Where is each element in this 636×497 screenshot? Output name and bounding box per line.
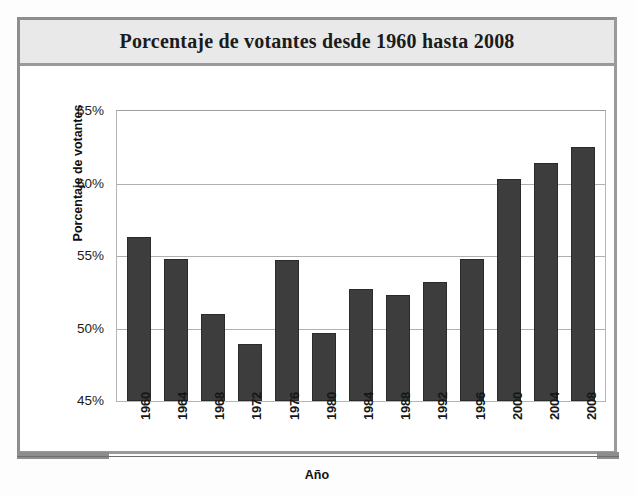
x-axis-tick-label: 1992 bbox=[435, 392, 450, 420]
y-axis-tick-label: 60% bbox=[77, 175, 104, 190]
y-axis-tick-label: 50% bbox=[77, 320, 104, 335]
bar-slot bbox=[120, 111, 157, 401]
bar-slot bbox=[194, 111, 231, 401]
bar-2004 bbox=[534, 163, 558, 401]
bar-1976 bbox=[275, 260, 299, 401]
bar-slot bbox=[454, 111, 491, 401]
bar-1996 bbox=[460, 259, 484, 401]
y-axis-tick-label: 55% bbox=[77, 248, 104, 263]
figure-frame: Porcentaje de votantes desde 1960 hasta … bbox=[17, 17, 617, 454]
figure-page: Porcentaje de votantes desde 1960 hasta … bbox=[0, 0, 636, 497]
bar-1968 bbox=[201, 314, 225, 401]
x-axis-tick-label: 1960 bbox=[138, 392, 153, 420]
chart-title: Porcentaje de votantes desde 1960 hasta … bbox=[119, 30, 514, 53]
x-axis-label: Año bbox=[20, 468, 614, 482]
bar-slot bbox=[491, 111, 528, 401]
bar-slot bbox=[157, 111, 194, 401]
y-axis-tick-labels: 65%60%55%50%45% bbox=[58, 66, 110, 406]
bar-slot bbox=[231, 111, 268, 401]
x-axis-tick-label: 2004 bbox=[547, 392, 562, 420]
x-axis-tick-label: 1996 bbox=[473, 392, 488, 420]
bar-slot bbox=[268, 111, 305, 401]
bar-slot bbox=[305, 111, 342, 401]
bar-1992 bbox=[423, 282, 447, 401]
bar-slot bbox=[380, 111, 417, 401]
bar-slot bbox=[417, 111, 454, 401]
bar-1960 bbox=[127, 237, 151, 401]
bar-1988 bbox=[386, 295, 410, 401]
x-axis-tick-label: 1976 bbox=[287, 392, 302, 420]
bar-series bbox=[117, 111, 605, 401]
bar-1964 bbox=[164, 259, 188, 401]
bar-1984 bbox=[349, 289, 373, 401]
bar-slot bbox=[565, 111, 602, 401]
chart-body: Porcentaje de votantes 65%60%55%50%45% 1… bbox=[20, 66, 614, 451]
bar-slot bbox=[342, 111, 379, 401]
chart-title-banner: Porcentaje de votantes desde 1960 hasta … bbox=[20, 20, 614, 66]
x-axis-tick-label: 1968 bbox=[212, 392, 227, 420]
bar-1980 bbox=[312, 333, 336, 401]
x-axis-tick-label: 1964 bbox=[175, 392, 190, 420]
x-axis-tick-label: 2008 bbox=[584, 392, 599, 420]
bar-2008 bbox=[571, 147, 595, 401]
x-axis-tick-label: 1972 bbox=[249, 392, 264, 420]
bar-slot bbox=[528, 111, 565, 401]
bar-2000 bbox=[497, 179, 521, 401]
x-axis-tick-label: 1984 bbox=[361, 392, 376, 420]
x-axis-tick-label: 1980 bbox=[324, 392, 339, 420]
y-axis-tick-label: 65% bbox=[77, 103, 104, 118]
page-baseline-rule bbox=[17, 456, 619, 457]
plot-area bbox=[116, 110, 606, 402]
x-axis-tick-label: 2000 bbox=[510, 392, 525, 420]
y-axis-tick-label: 45% bbox=[77, 393, 104, 408]
x-axis-tick-label: 1988 bbox=[398, 392, 413, 420]
